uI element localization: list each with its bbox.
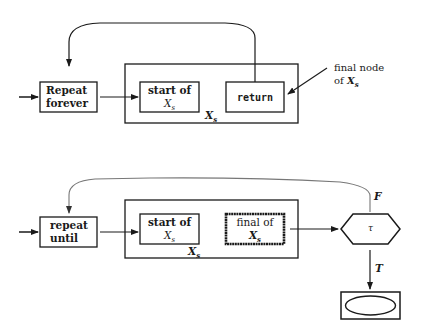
return-label: return (226, 91, 284, 104)
top-start-line1: start of (140, 84, 199, 97)
top-loop-back-arrow (69, 23, 255, 82)
repeat-forever-line1: Repeat (46, 84, 88, 97)
bottom-xs-outer-label: Xs (188, 245, 200, 262)
final-of-xs-label: final of Xs (226, 216, 284, 246)
condition-symbol: τ (341, 222, 400, 235)
annotation-line1: final node (334, 61, 384, 74)
final-node-annotation: final node of Xs (334, 61, 384, 91)
final-of-line1: final of (226, 216, 284, 229)
repeat-until-line1: repeat (50, 219, 88, 232)
top-xs-outer-label: Xs (205, 109, 217, 126)
false-branch-label: F (374, 190, 381, 203)
true-branch-label: T (375, 262, 383, 275)
repeat-forever-label: Repeat forever (46, 84, 88, 110)
final-of-xs: Xs (226, 229, 284, 246)
top-start-xs: Xs (140, 97, 199, 115)
annotation-line2: of Xs (334, 74, 384, 91)
final-node-annotation-arrow (288, 68, 327, 94)
repeat-forever-line2: forever (46, 97, 88, 110)
repeat-until-label: repeat until (50, 219, 88, 245)
flow-diagram-canvas (0, 0, 421, 328)
top-start-label: start of Xs (140, 84, 199, 115)
bottom-false-loop-arrow (69, 178, 370, 213)
bottom-start-line1: start of (140, 216, 199, 229)
repeat-until-line2: until (50, 232, 88, 245)
bottom-diagram (19, 178, 400, 319)
bottom-start-label: start of Xs (140, 216, 199, 247)
